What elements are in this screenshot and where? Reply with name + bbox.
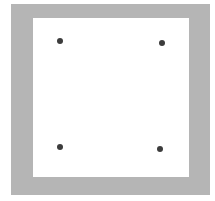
dot-top-right xyxy=(159,40,165,46)
dot-bottom-right xyxy=(157,146,163,152)
dot-top-left xyxy=(57,38,63,44)
dot-bottom-left xyxy=(57,144,63,150)
